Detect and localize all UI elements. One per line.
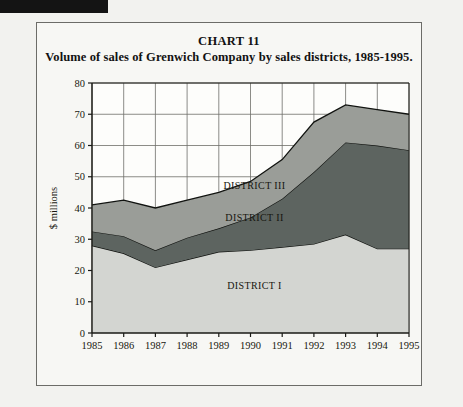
y-tick-label: 70: [75, 109, 86, 120]
chart-number: CHART 11: [37, 33, 421, 49]
y-tick-label: 10: [75, 296, 86, 307]
x-tick-label: 1993: [335, 340, 356, 351]
series-annotation-district-ii: DISTRICT II: [225, 212, 283, 223]
plot-area: 0102030405060708019851986198719881989199…: [37, 75, 423, 375]
x-tick-label: 1992: [303, 340, 324, 351]
x-tick-label: 1989: [208, 340, 229, 351]
y-tick-label: 0: [80, 328, 85, 339]
series-annotation-district-i: DISTRICT I: [227, 280, 282, 291]
x-tick-label: 1987: [145, 340, 166, 351]
x-tick-label: 1991: [272, 340, 293, 351]
x-tick-label: 1985: [82, 340, 103, 351]
chart-title-block: CHART 11 Volume of sales of Grenwich Com…: [37, 23, 421, 65]
stacked-area-chart: 0102030405060708019851986198719881989199…: [37, 75, 423, 375]
y-tick-label: 80: [75, 78, 86, 89]
x-tick-label: 1994: [367, 340, 389, 351]
x-tick-label: 1990: [240, 340, 261, 351]
y-tick-label: 20: [75, 265, 86, 276]
x-tick-label: 1986: [113, 340, 134, 351]
x-tick-label: 1995: [399, 340, 420, 351]
scan-margin-bar: [0, 0, 108, 13]
series-annotation-district-iii: DISTRICT III: [223, 180, 285, 191]
y-tick-label: 30: [75, 234, 86, 245]
x-tick-label: 1988: [177, 340, 198, 351]
y-axis-title: $ millions: [48, 187, 59, 229]
y-tick-label: 60: [75, 140, 86, 151]
chart-figure: CHART 11 Volume of sales of Grenwich Com…: [36, 22, 422, 386]
y-tick-label: 40: [75, 203, 86, 214]
y-tick-label: 50: [75, 171, 86, 182]
chart-caption: Volume of sales of Grenwich Company by s…: [37, 49, 421, 65]
